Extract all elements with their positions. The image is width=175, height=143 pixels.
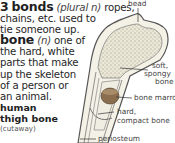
entry-number: 3 xyxy=(0,0,9,14)
label-bone-marrow: bone marrow xyxy=(134,94,175,102)
caption-line: human xyxy=(0,103,58,114)
part-of-speech: (n) xyxy=(37,35,51,46)
label-periosteum: periosteum xyxy=(98,135,140,143)
thigh-bone-illustration: head soft, spongy bone bone marrow hard,… xyxy=(70,0,175,143)
headword: bone xyxy=(0,32,34,47)
caption-line: thigh bone xyxy=(0,114,58,125)
caption-subtitle: (cutaway) xyxy=(0,124,58,135)
headword: bonds xyxy=(12,0,54,14)
label-bone: bone xyxy=(155,78,173,86)
illustration-caption: human thigh bone (cutaway) xyxy=(0,103,58,135)
label-head: head xyxy=(128,0,146,8)
label-compact-bone: compact bone xyxy=(117,117,170,125)
label-hard: hard, xyxy=(117,108,136,116)
